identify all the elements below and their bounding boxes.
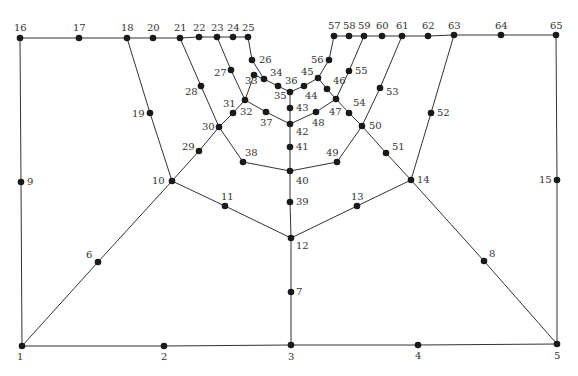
edge-4-5: [418, 344, 557, 345]
edge-10-29: [172, 151, 199, 181]
node-label-53: 53: [386, 86, 399, 97]
node-10: [169, 178, 176, 185]
node-label-32: 32: [240, 106, 253, 117]
node-12: [288, 235, 295, 242]
node-label-64: 64: [495, 20, 508, 31]
edge-49-50: [337, 126, 362, 162]
node-label-49: 49: [326, 147, 339, 158]
node-label-43: 43: [296, 102, 309, 113]
node-label-31: 31: [223, 98, 236, 109]
edge-6-10: [98, 181, 172, 262]
node-1: [19, 343, 26, 350]
node-label-61: 61: [396, 20, 409, 31]
edge-2-3: [164, 345, 291, 346]
node-label-16: 16: [14, 22, 27, 33]
node-label-26: 26: [259, 54, 272, 65]
edge-19-10: [150, 113, 172, 181]
node-label-28: 28: [185, 86, 198, 97]
node-label-34: 34: [270, 67, 283, 78]
node-59: [361, 33, 368, 40]
node-label-33: 33: [245, 75, 258, 86]
node-51: [383, 150, 390, 157]
node-48: [313, 109, 320, 116]
node-49: [334, 159, 341, 166]
node-label-46: 46: [333, 75, 346, 86]
node-label-18: 18: [121, 22, 134, 33]
edge-62-63: [428, 35, 454, 36]
node-label-1: 1: [17, 351, 23, 362]
edge-12-39: [290, 202, 291, 238]
edge-8-14: [411, 180, 484, 261]
node-18: [124, 35, 131, 42]
edge-30-38: [219, 127, 243, 162]
node-14: [408, 177, 415, 184]
node-30: [216, 124, 223, 131]
edge-23-27: [217, 37, 231, 70]
node-19: [147, 110, 154, 117]
node-6: [95, 259, 102, 266]
node-label-54: 54: [353, 97, 366, 108]
node-53: [377, 85, 384, 92]
node-26: [249, 57, 256, 64]
node-65: [553, 32, 560, 39]
node-label-65: 65: [550, 20, 563, 31]
node-43: [287, 105, 294, 112]
node-60: [379, 33, 386, 40]
node-61: [399, 33, 406, 40]
labels-layer: 1234567891011121314151617181920212223242…: [14, 20, 563, 362]
edge-52-14: [411, 113, 431, 180]
node-13: [354, 203, 361, 210]
node-9: [18, 179, 25, 186]
edge-15-65: [556, 35, 557, 180]
node-label-27: 27: [214, 67, 227, 78]
node-35: [275, 83, 282, 90]
node-38: [240, 159, 247, 166]
edge-1-6: [22, 262, 98, 346]
node-label-23: 23: [211, 22, 224, 33]
node-label-38: 38: [245, 147, 258, 158]
node-62: [425, 33, 432, 40]
node-label-5: 5: [554, 350, 560, 361]
edge-9-16: [20, 38, 21, 182]
node-label-8: 8: [489, 248, 495, 259]
node-40: [287, 168, 294, 175]
node-label-52: 52: [437, 107, 450, 118]
node-41: [287, 144, 294, 151]
node-label-57: 57: [328, 20, 341, 31]
node-24: [230, 34, 237, 41]
edge-38-40: [243, 162, 290, 171]
node-label-47: 47: [329, 106, 342, 117]
node-label-22: 22: [193, 22, 206, 33]
node-28: [198, 83, 205, 90]
node-47: [333, 96, 340, 103]
node-label-50: 50: [369, 120, 382, 131]
mesh-diagram: 1234567891011121314151617181920212223242…: [0, 0, 578, 376]
node-27: [228, 67, 235, 74]
node-36: [287, 89, 294, 96]
node-15: [554, 177, 561, 184]
node-2: [161, 343, 168, 350]
node-44: [301, 83, 308, 90]
node-37: [263, 109, 270, 116]
node-label-13: 13: [351, 191, 364, 202]
node-label-58: 58: [343, 20, 356, 31]
node-29: [196, 148, 203, 155]
node-label-44: 44: [305, 90, 318, 101]
node-17: [76, 35, 83, 42]
node-45: [315, 75, 322, 82]
node-label-30: 30: [202, 121, 215, 132]
node-34: [261, 76, 268, 83]
node-63: [451, 32, 458, 39]
edge-57-56: [329, 36, 334, 60]
node-label-25: 25: [242, 22, 255, 33]
edge-21-28: [180, 38, 201, 86]
edge-63-52: [431, 35, 454, 113]
node-31: [242, 97, 249, 104]
node-7: [288, 289, 295, 296]
node-label-63: 63: [448, 20, 461, 31]
node-32: [230, 110, 237, 117]
node-label-2: 2: [161, 351, 167, 362]
node-52: [428, 110, 435, 117]
node-label-20: 20: [147, 22, 160, 33]
edge-61-53: [380, 36, 402, 88]
